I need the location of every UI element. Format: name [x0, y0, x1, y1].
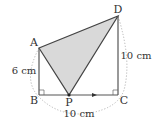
label-D: D	[114, 3, 123, 16]
geometry-figure: A B P C D 6 cm 10 cm 10 cm	[0, 0, 160, 131]
arrow-icon	[92, 93, 97, 97]
label-C: C	[120, 94, 128, 107]
right-angle-C	[113, 90, 118, 95]
dimension-BC: 10 cm	[64, 108, 96, 119]
right-angle-B	[39, 90, 44, 95]
dimension-AB: 6 cm	[12, 65, 37, 76]
shaded-triangle-APD	[39, 16, 118, 95]
label-B: B	[30, 94, 38, 107]
dimension-CD: 10 cm	[121, 50, 153, 61]
label-A: A	[29, 36, 39, 49]
